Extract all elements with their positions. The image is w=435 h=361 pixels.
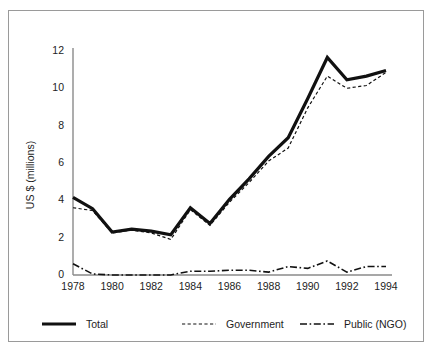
y-tick-label: 12 (52, 44, 64, 56)
x-tick-label: 1980 (100, 280, 124, 292)
y-tick-labels: 024681012 (52, 44, 64, 280)
y-tick-label: 10 (52, 81, 64, 93)
y-tick-label: 8 (58, 119, 64, 131)
x-tick-labels: 197819801982198419861988199019921994 (61, 280, 398, 292)
chart-legend: TotalGovernmentPublic (NGO) (42, 318, 406, 330)
legend-label-public-ngo: Public (NGO) (344, 318, 406, 330)
x-tick-label: 1986 (218, 280, 242, 292)
y-tick-label: 0 (58, 268, 64, 280)
series-line-public-ngo (73, 261, 386, 275)
y-axis-title: US $ (millions) (24, 141, 36, 209)
line-chart: 024681012 197819801982198419861988199019… (0, 0, 435, 361)
y-tick-label: 4 (58, 193, 64, 205)
x-tick-label: 1978 (61, 280, 85, 292)
y-tick-label: 2 (58, 231, 64, 243)
x-tick-label: 1984 (179, 280, 203, 292)
x-tick-label: 1990 (296, 280, 320, 292)
legend-label-government: Government (226, 318, 284, 330)
x-tick-label: 1982 (140, 280, 164, 292)
legend-label-total: Total (86, 318, 108, 330)
x-tick-label: 1988 (257, 280, 281, 292)
x-tick-label: 1992 (335, 280, 359, 292)
data-series-layer (73, 57, 386, 274)
series-line-government (73, 72, 386, 239)
chart-canvas: 024681012 197819801982198419861988199019… (0, 0, 435, 361)
y-tick-label: 6 (58, 156, 64, 168)
x-tick-label: 1994 (374, 280, 398, 292)
